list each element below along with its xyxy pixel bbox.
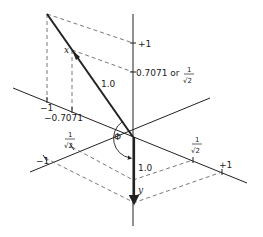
label-x: x xyxy=(64,45,69,55)
label-frac-num-left: 1 xyxy=(68,131,72,139)
label-frac-num-top: 1 xyxy=(187,66,191,74)
vector-diagram: +1 0.7071 or 1 √2 −1 −0.7071 x 1.0 1 √2 … xyxy=(0,0,263,237)
label-07071: 0.7071 or xyxy=(136,68,180,78)
label-plus-one-right: +1 xyxy=(219,160,232,170)
label-frac-den-right: √2 xyxy=(191,147,200,155)
label-frac-den-top: √2 xyxy=(183,77,192,85)
label-plus-one-top: +1 xyxy=(138,39,151,49)
label-minus-one-axis: −1 xyxy=(36,156,49,166)
label-minus-one-left: −1 xyxy=(40,103,53,113)
label-minus-07071: −0.7071 xyxy=(44,113,83,123)
label-x-magnitude: 1.0 xyxy=(101,79,116,89)
label-phi: Φ xyxy=(114,132,121,142)
label-y: y xyxy=(137,185,144,195)
label-frac-den-left: √2 xyxy=(64,142,73,150)
label-frac-num-right: 1 xyxy=(195,136,199,144)
label-y-magnitude: 1.0 xyxy=(138,163,153,173)
